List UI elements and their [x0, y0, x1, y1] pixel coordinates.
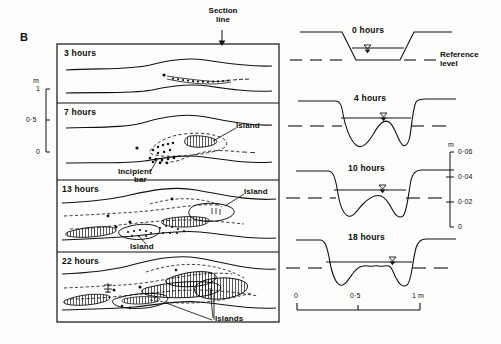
plan-panel-13-hours: [62, 188, 276, 244]
xscale-tick-05: 0·5: [350, 292, 360, 299]
plan-vertical-scale: [46, 89, 50, 152]
annotation-bar-7h: bar: [134, 176, 147, 184]
figure-root: B Section line 3 hours 7 hours 13 hours …: [0, 0, 501, 344]
reference-level-line2: level: [440, 59, 458, 68]
plan-panel-label-7h: 7 hours: [64, 108, 96, 117]
plan-scale-tick-05: 0·5: [26, 116, 36, 123]
annotation-island-13h-left: Island: [130, 243, 154, 251]
plan-scale-tick-1: 1: [36, 85, 40, 92]
plan-panel-22-hours: [62, 257, 276, 320]
annotation-island-13h-right: Island: [244, 188, 268, 196]
plan-panel-3-hours: [66, 59, 272, 93]
xsection-label-0h: 0 hours: [352, 26, 384, 35]
cross-section-horizontal-scale: [297, 303, 420, 310]
plan-scale-tick-0: 0: [36, 148, 40, 155]
plan-panel-label-13h: 13 hours: [62, 185, 99, 194]
xsection-label-4h: 4 hours: [354, 94, 386, 103]
cross-section-10-hours: [286, 170, 454, 217]
xsection-label-18h: 18 hours: [348, 233, 385, 242]
annotation-islands-22h: Islands: [215, 315, 243, 323]
reference-level-line1: Reference: [440, 50, 479, 59]
section-line-label-line1: Section: [209, 6, 238, 15]
xsection-label-10h: 10 hours: [348, 164, 385, 173]
water-level-symbol-4h: [380, 113, 387, 121]
cross-section-0-hours: [290, 32, 452, 60]
water-level-symbol-10h: [379, 185, 386, 193]
section-line-label-line2: line: [216, 15, 230, 24]
plan-scale-unit: m: [33, 77, 39, 84]
xsection-scale-tick-006: 0·06: [458, 148, 472, 155]
xsection-scale-tick-0: 0: [458, 223, 462, 230]
xscale-tick-1m: 1 m: [412, 292, 424, 299]
plan-panel-label-3h: 3 hours: [64, 49, 96, 58]
figure-letter: B: [20, 32, 28, 44]
annotation-island-7h: Island: [236, 122, 260, 130]
cross-section-18-hours: [286, 239, 456, 286]
water-level-symbol-0h: [364, 45, 371, 53]
xscale-tick-0: 0: [294, 292, 298, 299]
plan-panel-label-22h: 22 hours: [62, 257, 99, 266]
reference-level-label: Reference level: [440, 51, 479, 69]
xsection-scale-unit: m: [448, 141, 454, 148]
water-level-symbol-18h: [389, 257, 396, 265]
cross-section-4-hours: [288, 99, 456, 147]
section-line-label: Section line: [198, 7, 248, 25]
xsection-scale-tick-002: 0·02: [458, 198, 472, 205]
cross-section-vertical-scale: [446, 152, 454, 227]
xsection-scale-tick-004: 0·04: [458, 173, 472, 180]
